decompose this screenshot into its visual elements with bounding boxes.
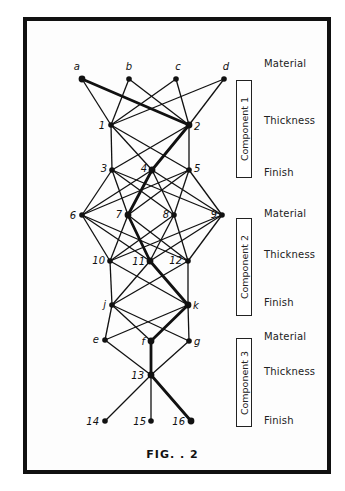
node-label: 3 bbox=[101, 163, 107, 174]
node-d: d bbox=[221, 61, 230, 82]
node-dot bbox=[149, 167, 156, 174]
component-3-label: Component 3 bbox=[239, 350, 250, 414]
highlighted-edge-11-k bbox=[150, 261, 188, 305]
node-dot bbox=[219, 212, 225, 218]
component-1-label: Component 1 bbox=[239, 97, 250, 161]
node-dot bbox=[186, 122, 193, 129]
node-dot bbox=[109, 302, 115, 308]
node-label: k bbox=[193, 300, 200, 311]
component-2-label: Component 2 bbox=[239, 235, 250, 299]
c2-finish-label: Finish bbox=[264, 297, 294, 308]
node-dot bbox=[185, 302, 192, 309]
node-label: 7 bbox=[116, 209, 123, 220]
node-label: 15 bbox=[133, 416, 146, 427]
node-label: 1 bbox=[99, 120, 105, 131]
node-dot bbox=[147, 258, 154, 265]
node-label: d bbox=[223, 61, 230, 72]
node-label: a bbox=[74, 61, 80, 72]
node-label: 2 bbox=[194, 121, 200, 132]
c1-material-label: Material bbox=[264, 58, 306, 69]
node-b: b bbox=[126, 61, 132, 82]
c3-thickness-label: Thickness bbox=[264, 366, 315, 377]
node-dot bbox=[185, 258, 191, 264]
node-dot bbox=[186, 338, 192, 344]
node-label: 8 bbox=[163, 209, 169, 220]
highlighted-edge-4-7 bbox=[128, 170, 152, 215]
node-label: e bbox=[93, 334, 99, 345]
highlighted-edge-a-2 bbox=[82, 79, 189, 125]
node-2: 2 bbox=[186, 121, 201, 132]
component-2-box: Component 2 bbox=[236, 218, 252, 316]
node-label: 12 bbox=[169, 255, 182, 266]
c3-material-label: Material bbox=[264, 331, 306, 342]
node-dot bbox=[148, 338, 155, 345]
node-dot bbox=[188, 418, 195, 425]
node-dot bbox=[108, 122, 114, 128]
node-dot bbox=[125, 212, 132, 219]
node-11: 11 bbox=[132, 256, 153, 267]
edge-g-13 bbox=[151, 341, 189, 375]
node-j: j bbox=[101, 299, 115, 310]
node-label: b bbox=[126, 61, 132, 72]
node-label: f bbox=[141, 336, 146, 347]
node-dot bbox=[102, 337, 108, 343]
node-label: 9 bbox=[211, 209, 217, 220]
node-dot bbox=[148, 418, 154, 424]
node-label: j bbox=[101, 299, 106, 310]
edge-13-14 bbox=[105, 375, 151, 421]
node-label: 5 bbox=[194, 163, 200, 174]
c1-thickness-label: Thickness bbox=[264, 115, 315, 126]
node-5: 5 bbox=[186, 163, 200, 174]
node-dot bbox=[148, 372, 155, 379]
c2-thickness-label: Thickness bbox=[264, 249, 315, 260]
node-label: 11 bbox=[132, 256, 145, 267]
node-label: 6 bbox=[70, 210, 76, 221]
node-dot bbox=[221, 76, 227, 82]
figure-caption: FIG. . 2 bbox=[0, 448, 345, 461]
edge-11-j bbox=[112, 261, 150, 305]
edge-k-g bbox=[188, 305, 189, 341]
highlighted-edge-13-16 bbox=[151, 375, 191, 421]
node-label: g bbox=[194, 336, 200, 347]
node-dot bbox=[109, 167, 115, 173]
node-label: 10 bbox=[92, 255, 105, 266]
node-6: 6 bbox=[70, 210, 85, 221]
edge-10-j bbox=[110, 261, 112, 305]
node-dot bbox=[107, 258, 113, 264]
edge-1-3 bbox=[111, 125, 112, 170]
node-label: 16 bbox=[172, 416, 185, 427]
node-dot bbox=[102, 418, 108, 424]
node-dot bbox=[79, 212, 85, 218]
highlighted-edge-k-f bbox=[151, 305, 188, 341]
node-c: c bbox=[173, 61, 181, 82]
highlighted-edge-2-4 bbox=[152, 125, 189, 170]
node-label: c bbox=[175, 61, 181, 72]
edge-j-e bbox=[105, 305, 112, 340]
node-label: 13 bbox=[131, 370, 144, 381]
c2-material-label: Material bbox=[264, 208, 306, 219]
component-1-box: Component 1 bbox=[236, 80, 252, 178]
node-dot bbox=[126, 76, 132, 82]
c1-finish-label: Finish bbox=[264, 167, 294, 178]
node-label: 4 bbox=[141, 163, 147, 174]
node-16: 16 bbox=[172, 416, 194, 427]
node-dot bbox=[79, 76, 86, 83]
node-dot bbox=[186, 167, 192, 173]
edge-j-g bbox=[112, 305, 189, 341]
node-dot bbox=[173, 76, 179, 82]
edge-5-6 bbox=[82, 170, 189, 215]
component-3-box: Component 3 bbox=[236, 338, 252, 427]
edge-c-2 bbox=[176, 79, 189, 125]
node-label: 14 bbox=[86, 416, 99, 427]
node-dot bbox=[171, 212, 177, 218]
node-3: 3 bbox=[101, 163, 115, 174]
node-14: 14 bbox=[86, 416, 108, 427]
node-a: a bbox=[74, 61, 86, 82]
c3-finish-label: Finish bbox=[264, 415, 294, 426]
